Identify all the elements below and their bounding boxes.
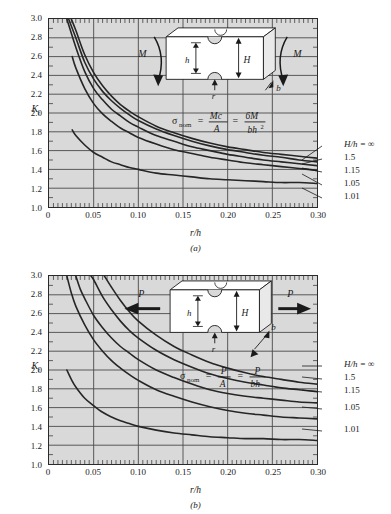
gridlines-a (49, 19, 317, 207)
x-tick-label: 0.30 (302, 467, 334, 477)
y-tick-label: 2.0 (12, 108, 42, 118)
legend-leaders-a (300, 140, 330, 202)
y-tick-label: 2.4 (12, 327, 42, 337)
x-tick-label: 0.20 (212, 467, 244, 477)
x-tick-label: 0.10 (122, 210, 154, 220)
y-tick-label: 1.4 (12, 422, 42, 432)
legend-leaders-b (300, 357, 330, 462)
x-tick-label: 0 (32, 210, 64, 220)
y-tick-label: 1.6 (12, 403, 42, 413)
figure-stress-concentration-charts: Kt 3.0 2.8 2.6 2.4 2.2 2.0 1.8 1.6 1.4 1… (0, 0, 391, 514)
curve-105 (67, 276, 317, 419)
y-tick-label: 3.0 (12, 13, 42, 23)
x-tick-label: 0.15 (167, 467, 199, 477)
x-tick-label: 0.25 (257, 210, 289, 220)
legend-leader-line (302, 390, 322, 392)
legend-item-1.01: 1.01 (344, 424, 360, 434)
y-tick-label: 3.0 (12, 270, 42, 280)
y-tick-label: 1.2 (12, 441, 42, 451)
y-tick-label: 2.8 (12, 32, 42, 42)
legend-leader-line (302, 146, 322, 160)
x-tick-label: 0.15 (167, 210, 199, 220)
x-tick-label: 0.05 (77, 210, 109, 220)
legend-leader-line (302, 188, 322, 198)
curve-105 (72, 57, 317, 171)
panel-caption-a: (a) (0, 243, 391, 253)
curve-15 (91, 276, 317, 392)
curve-Hh (71, 19, 317, 158)
y-tick-label: 2.6 (12, 308, 42, 318)
legend-leader-line (302, 377, 322, 379)
x-tick-label: 0.30 (302, 210, 334, 220)
x-tick-label: 0.25 (257, 467, 289, 477)
y-tick-label: 1.2 (12, 184, 42, 194)
legend-leader-line (302, 429, 322, 431)
data-curves-b (67, 276, 317, 441)
chart-panel-a: Kt 3.0 2.8 2.6 2.4 2.2 2.0 1.8 1.6 1.4 1… (0, 0, 391, 257)
legend-item-1.15: 1.15 (344, 165, 360, 175)
x-tick-label: 0.10 (122, 467, 154, 477)
y-tick-label: 2.2 (12, 89, 42, 99)
legend-item-1.05: 1.05 (344, 402, 360, 412)
legend-leader-line (302, 174, 322, 185)
gridlines-b (49, 276, 317, 464)
legend-item-1.5: 1.5 (344, 152, 355, 162)
x-axis-label-b: r/h (0, 485, 391, 495)
legend-item-inf: H/h = ∞ (344, 359, 375, 369)
y-tick-label: 2.8 (12, 289, 42, 299)
legend-item-1.05: 1.05 (344, 178, 360, 188)
y-tick-label: 2.0 (12, 365, 42, 375)
plot-area-a: h H r b M M (48, 18, 318, 208)
curve-101 (67, 370, 317, 441)
legend-leader-line (302, 407, 322, 409)
curve-Hh (104, 276, 317, 384)
legend-item-inf: H/h = ∞ (344, 139, 375, 149)
y-tick-label: 2.6 (12, 51, 42, 61)
legend-item-1.5: 1.5 (344, 372, 355, 382)
y-tick-label: 1.6 (12, 146, 42, 156)
x-tick-label: 0.20 (212, 210, 244, 220)
x-axis-label-a: r/h (0, 228, 391, 238)
x-tick-label: 0.05 (77, 467, 109, 477)
plot-svg-b (49, 276, 317, 464)
x-tick-label: 0 (32, 467, 64, 477)
legend-item-1.15: 1.15 (344, 385, 360, 395)
legend-leader-line (302, 159, 322, 164)
legend-item-1.01: 1.01 (344, 191, 360, 201)
y-tick-label: 2.2 (12, 346, 42, 356)
y-tick-label: 2.4 (12, 70, 42, 80)
legend-leader-line (302, 168, 322, 172)
y-tick-label: 1.8 (12, 127, 42, 137)
y-tick-label: 1.8 (12, 384, 42, 394)
data-curves-a (67, 19, 317, 184)
plot-area-b: h H r b P P (48, 275, 318, 465)
chart-panel-b: Kt 3.0 2.8 2.6 2.4 2.2 2.0 1.8 1.6 1.4 1… (0, 257, 391, 514)
plot-svg-a (49, 19, 317, 207)
panel-caption-b: (b) (0, 500, 391, 510)
y-tick-label: 1.4 (12, 165, 42, 175)
